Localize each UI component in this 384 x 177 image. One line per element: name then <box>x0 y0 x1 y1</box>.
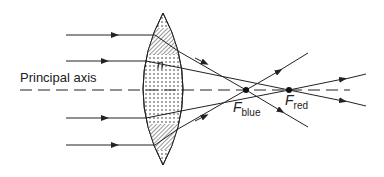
focal-red-label: Fred <box>285 92 308 111</box>
focal-red-sub: red <box>294 100 308 111</box>
focal-blue-label: Fblue <box>233 99 260 118</box>
refractive-index-label: n <box>157 58 164 72</box>
focal-blue-main: F <box>233 99 242 115</box>
convex-lens <box>140 13 183 165</box>
focal-blue-sub: blue <box>242 107 261 118</box>
focal-point-blue <box>243 87 249 93</box>
focal-red-main: F <box>285 92 294 108</box>
principal-axis-label: Principal axis <box>20 70 97 85</box>
lens-diagram <box>0 0 384 177</box>
